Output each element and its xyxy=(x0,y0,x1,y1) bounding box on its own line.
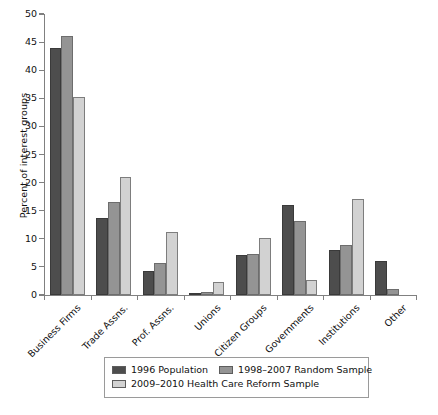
bar xyxy=(247,254,259,295)
bar-group xyxy=(143,14,178,295)
legend-label-2: 1998–2007 Random Sample xyxy=(238,365,372,375)
bar xyxy=(387,289,399,295)
x-tick xyxy=(416,295,417,300)
bar xyxy=(143,271,155,295)
x-tick xyxy=(44,295,45,300)
legend-item-1996-population: 1996 Population xyxy=(112,365,208,375)
bar xyxy=(61,36,73,295)
bar-group xyxy=(282,14,317,295)
bar-group xyxy=(375,14,410,295)
bar-group xyxy=(236,14,271,295)
bar xyxy=(120,177,132,295)
bar xyxy=(189,293,201,295)
y-tick xyxy=(39,154,44,155)
bar xyxy=(201,292,213,295)
bar xyxy=(108,202,120,295)
bar-group xyxy=(329,14,364,295)
y-tick-label: 25 xyxy=(10,150,37,160)
y-tick xyxy=(39,210,44,211)
x-tick xyxy=(137,295,138,300)
legend-item-random-sample: 1998–2007 Random Sample xyxy=(219,365,372,375)
x-tick xyxy=(370,295,371,300)
legend-item-health-care-reform-sample: 2009–2010 Health Care Reform Sample xyxy=(112,379,319,389)
x-tick xyxy=(91,295,92,300)
y-tick xyxy=(39,42,44,43)
bar xyxy=(282,205,294,295)
bar-group xyxy=(96,14,131,295)
y-tick xyxy=(39,13,44,14)
x-tick xyxy=(323,295,324,300)
bar xyxy=(73,97,85,295)
y-tick-label: 50 xyxy=(10,9,37,19)
y-tick xyxy=(39,266,44,267)
y-tick-label: 5 xyxy=(10,262,37,272)
y-tick-label: 40 xyxy=(10,65,37,75)
bar xyxy=(154,263,166,295)
plot-area: 05101520253035404550 xyxy=(44,14,416,296)
bar-group xyxy=(50,14,85,295)
y-tick-label: 0 xyxy=(10,290,37,300)
y-tick xyxy=(39,182,44,183)
legend-swatch-icon-2 xyxy=(219,366,233,374)
legend-label-3: 2009–2010 Health Care Reform Sample xyxy=(131,379,319,389)
y-tick-label: 20 xyxy=(10,178,37,188)
legend-label-1: 1996 Population xyxy=(131,365,208,375)
bar xyxy=(306,280,318,295)
bar-chart: Percent of interest groups 0510152025303… xyxy=(0,0,438,415)
bar xyxy=(340,245,352,295)
bar xyxy=(375,261,387,295)
x-tick xyxy=(184,295,185,300)
x-tick xyxy=(277,295,278,300)
bar xyxy=(50,48,62,295)
y-tick-label: 45 xyxy=(10,37,37,47)
y-tick xyxy=(39,238,44,239)
bar xyxy=(213,282,225,295)
y-tick xyxy=(39,98,44,99)
y-tick xyxy=(39,126,44,127)
y-tick-label: 15 xyxy=(10,206,37,216)
legend-row-2: 2009–2010 Health Care Reform Sample xyxy=(112,377,361,391)
x-tick xyxy=(230,295,231,300)
chart-legend: 1996 Population 1998–2007 Random Sample … xyxy=(104,357,369,398)
legend-swatch-icon-1 xyxy=(112,366,126,374)
bar-group xyxy=(189,14,224,295)
y-tick xyxy=(39,70,44,71)
y-tick-label: 35 xyxy=(10,93,37,103)
legend-row-1: 1996 Population 1998–2007 Random Sample xyxy=(112,363,361,377)
bar xyxy=(166,232,178,295)
y-tick-label: 30 xyxy=(10,121,37,131)
y-tick-label: 10 xyxy=(10,234,37,244)
bar xyxy=(96,218,108,295)
legend-swatch-icon-3 xyxy=(112,380,126,388)
bar xyxy=(329,250,341,295)
bar xyxy=(352,199,364,295)
bar xyxy=(294,221,306,295)
bar xyxy=(259,238,271,295)
y-axis-line xyxy=(44,14,45,296)
bar xyxy=(236,255,248,295)
